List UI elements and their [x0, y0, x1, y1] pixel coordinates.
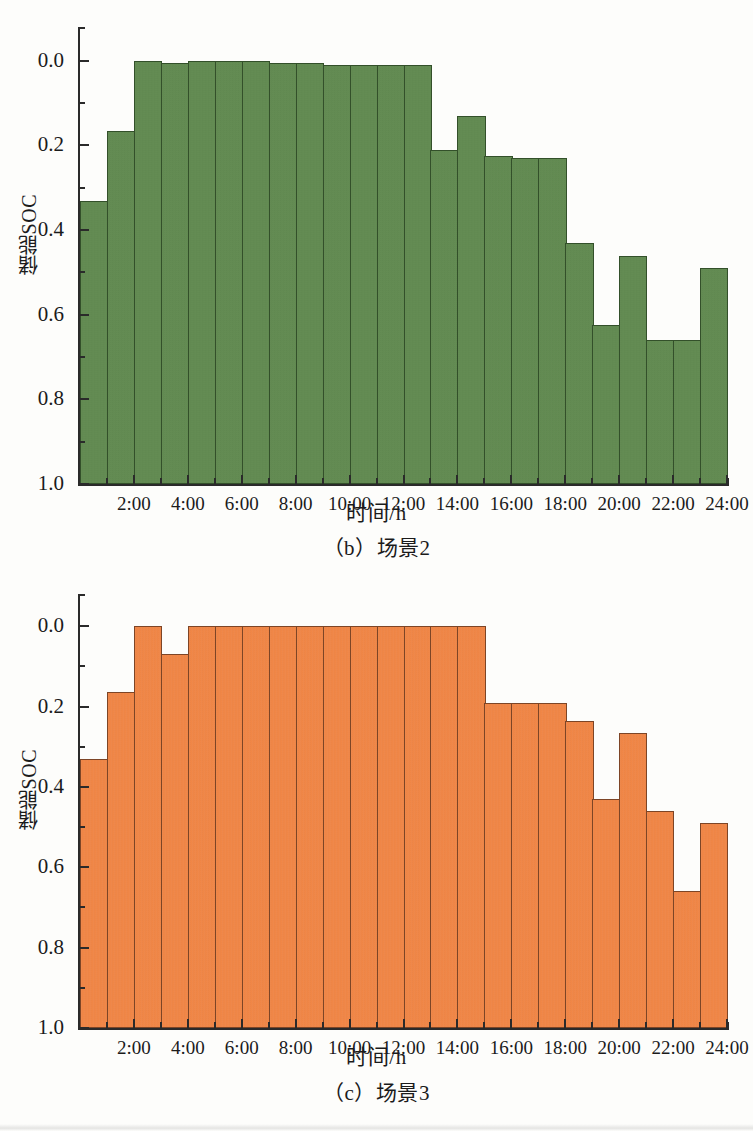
x-tick-minor — [160, 1022, 162, 1028]
bar — [511, 158, 539, 484]
bar — [484, 703, 512, 1029]
x-tick-minor — [376, 1022, 378, 1028]
x-tick-major — [349, 1019, 351, 1029]
x-tick-major — [403, 1019, 405, 1029]
y-tick-major — [78, 483, 89, 485]
y-tick-label: 0.6 — [6, 304, 64, 325]
x-tick-minor — [483, 1022, 485, 1028]
x-tick-minor — [645, 478, 647, 484]
x-tick-minor — [214, 478, 216, 484]
x-tick-major — [295, 475, 297, 485]
figure-caption-c: （c）场景3 — [0, 1076, 753, 1106]
y-tick-major — [78, 144, 89, 146]
x-tick-minor — [268, 1022, 270, 1028]
x-tick-minor — [537, 1022, 539, 1028]
y-tick-major — [78, 947, 89, 949]
x-tick-minor — [214, 1022, 216, 1028]
bar — [377, 626, 405, 1028]
y-tick-minor — [78, 906, 85, 908]
bar — [107, 692, 135, 1028]
bar — [484, 156, 512, 484]
bar — [350, 65, 378, 484]
y-tick-minor — [78, 271, 85, 273]
bar — [350, 626, 378, 1028]
bar — [538, 703, 566, 1029]
y-tick-minor — [78, 746, 85, 748]
x-tick-minor — [268, 478, 270, 484]
bar — [404, 626, 432, 1028]
bar — [215, 626, 243, 1028]
y-tick-minor — [78, 187, 85, 189]
x-tick-major — [403, 475, 405, 485]
bar — [107, 131, 135, 484]
x-tick-minor — [429, 1022, 431, 1028]
x-tick-major — [456, 1019, 458, 1029]
bar — [592, 325, 620, 484]
bar — [242, 626, 270, 1028]
figure-scenario-3: 储能SOC 时间/h （c）场景3 1.00.80.60.40.20.02:00… — [0, 562, 753, 1131]
plot-area-c — [80, 594, 727, 1028]
x-tick-minor — [591, 1022, 593, 1028]
y-tick-minor — [78, 826, 85, 828]
x-tick-minor — [699, 478, 701, 484]
x-tick-major — [187, 475, 189, 485]
bar — [161, 654, 189, 1028]
bar — [296, 626, 324, 1028]
bar — [134, 61, 162, 484]
x-tick-label: 24:00 — [691, 1038, 753, 1057]
y-tick-major — [78, 60, 89, 62]
y-tick-major — [78, 625, 89, 627]
x-tick-minor — [645, 1022, 647, 1028]
y-tick-minor — [78, 441, 85, 443]
x-tick-major — [726, 1019, 728, 1029]
y-axis-line — [78, 594, 80, 1028]
figure-caption-b: （b）场景2 — [0, 531, 753, 561]
bar — [700, 268, 728, 484]
y-axis-top-cap — [78, 27, 85, 29]
bar — [404, 65, 432, 484]
x-tick-major — [187, 1019, 189, 1029]
y-tick-label: 0.0 — [6, 50, 64, 71]
bar — [457, 626, 485, 1028]
x-tick-major — [349, 475, 351, 485]
x-tick-major — [510, 1019, 512, 1029]
bar — [673, 891, 701, 1028]
x-tick-minor — [322, 1022, 324, 1028]
x-tick-major — [726, 475, 728, 485]
bar — [592, 799, 620, 1028]
bar — [269, 626, 297, 1028]
y-tick-label: 1.0 — [6, 473, 64, 494]
x-tick-label: 24:00 — [691, 494, 753, 513]
x-tick-major — [618, 1019, 620, 1029]
bar — [323, 65, 351, 484]
bar — [323, 626, 351, 1028]
y-tick-major — [78, 786, 89, 788]
bar — [296, 63, 324, 484]
y-tick-label: 0.2 — [6, 134, 64, 155]
bar — [646, 340, 674, 484]
y-axis-line — [78, 27, 80, 484]
y-tick-major — [78, 706, 89, 708]
x-tick-major — [564, 475, 566, 485]
x-tick-major — [672, 1019, 674, 1029]
y-tick-major — [78, 398, 89, 400]
plot-area-b — [80, 27, 727, 484]
x-tick-major — [241, 1019, 243, 1029]
figure-scenario-2: 储能SOC 时间/h （b）场景2 1.00.80.60.40.20.02:00… — [0, 0, 753, 570]
y-tick-label: 1.0 — [6, 1017, 64, 1038]
bar — [673, 340, 701, 484]
x-tick-minor — [591, 478, 593, 484]
x-tick-minor — [483, 478, 485, 484]
x-tick-major — [456, 475, 458, 485]
y-tick-minor — [78, 665, 85, 667]
bar — [242, 61, 270, 484]
x-tick-minor — [429, 478, 431, 484]
y-tick-label: 0.6 — [6, 856, 64, 877]
x-tick-minor — [160, 478, 162, 484]
bar — [511, 703, 539, 1029]
y-tick-major — [78, 1027, 89, 1029]
x-tick-major — [672, 475, 674, 485]
y-tick-major — [78, 314, 89, 316]
y-tick-minor — [78, 102, 85, 104]
bar — [377, 65, 405, 484]
